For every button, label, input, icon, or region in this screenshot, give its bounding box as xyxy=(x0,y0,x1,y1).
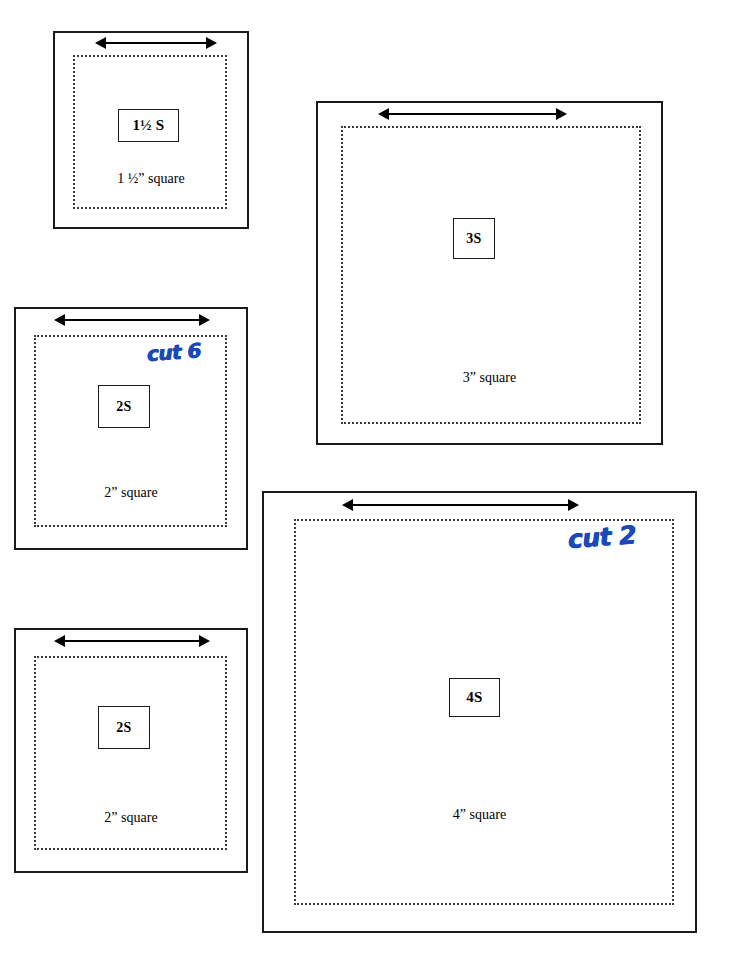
size-code-box: 1½ S xyxy=(118,109,179,142)
arrow-shaft xyxy=(61,319,203,321)
template-panel-3-inch: 3S 3” square xyxy=(316,101,663,445)
arrow-shaft xyxy=(385,113,560,115)
width-measure-arrow xyxy=(54,313,210,327)
template-panel-2-inch-bottom: 2S 2” square xyxy=(14,628,248,873)
panel-caption: 2” square xyxy=(16,810,246,826)
arrow-shaft xyxy=(61,640,203,642)
width-measure-arrow xyxy=(342,498,579,512)
panel-caption: 1 ½” square xyxy=(55,171,247,187)
arrow-shaft xyxy=(102,42,210,44)
handwritten-cut-quantity-note: cut 2 xyxy=(567,520,637,554)
panel-caption: 4” square xyxy=(264,807,695,823)
arrow-head-right-icon xyxy=(568,499,579,511)
panel-caption: 3” square xyxy=(318,370,661,386)
template-panel-2-inch-top: cut 6 2S 2” square xyxy=(14,307,248,550)
arrow-shaft xyxy=(349,504,572,506)
arrow-head-right-icon xyxy=(556,108,567,120)
template-panel-4-inch: cut 2 4S 4” square xyxy=(262,491,697,933)
size-code-box: 4S xyxy=(449,678,500,717)
arrow-head-right-icon xyxy=(199,314,210,326)
size-code-box: 3S xyxy=(453,218,495,259)
width-measure-arrow xyxy=(95,36,217,50)
size-code-label: 2S xyxy=(116,720,131,736)
page-canvas: 1½ S 1 ½” square cut 6 2S 2” square 2S 2… xyxy=(0,0,731,976)
width-measure-arrow xyxy=(378,107,567,121)
handwritten-cut-quantity-note: cut 6 xyxy=(146,338,202,366)
size-code-box: 2S xyxy=(98,706,150,749)
size-code-label: 3S xyxy=(466,231,481,247)
size-code-label: 1½ S xyxy=(132,117,164,134)
arrow-head-right-icon xyxy=(206,37,217,49)
size-code-box: 2S xyxy=(98,385,150,428)
size-code-label: 4S xyxy=(466,689,482,706)
width-measure-arrow xyxy=(54,634,210,648)
panel-caption: 2” square xyxy=(16,485,246,501)
arrow-head-right-icon xyxy=(199,635,210,647)
size-code-label: 2S xyxy=(116,399,131,415)
template-panel-1-5-inch: 1½ S 1 ½” square xyxy=(53,31,249,229)
